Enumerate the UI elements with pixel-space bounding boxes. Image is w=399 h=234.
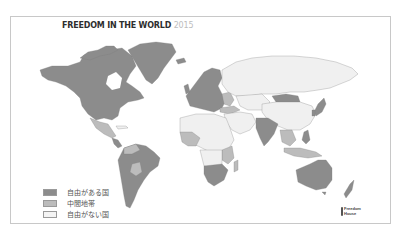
region-uk bbox=[184, 84, 190, 94]
swatch-partly-free bbox=[43, 200, 57, 207]
region-greenland bbox=[128, 42, 176, 84]
region-india bbox=[256, 118, 278, 146]
logo-text: Freedom House bbox=[344, 207, 361, 216]
region-australia bbox=[296, 160, 332, 190]
legend-label: 自由がある国 bbox=[67, 187, 109, 197]
region-new-zealand bbox=[344, 180, 354, 198]
swatch-free bbox=[43, 189, 57, 196]
legend-label: 中間地帯 bbox=[67, 198, 95, 208]
region-indonesia bbox=[284, 148, 322, 158]
legend-item-partly-free: 中間地帯 bbox=[43, 198, 109, 208]
region-philippines bbox=[302, 130, 310, 144]
region-madagascar bbox=[234, 160, 238, 172]
region-korea bbox=[312, 110, 315, 116]
legend-label: 自由がない国 bbox=[67, 209, 109, 219]
region-cuba bbox=[116, 126, 128, 129]
region-western-europe bbox=[186, 68, 226, 112]
freedom-house-logo: Freedom House bbox=[341, 207, 361, 216]
region-central-america bbox=[112, 138, 122, 148]
region-japan bbox=[314, 98, 326, 116]
legend: 自由がある国 中間地帯 自由がない国 bbox=[43, 187, 109, 220]
region-tasmania bbox=[322, 192, 326, 195]
swatch-not-free bbox=[43, 211, 57, 218]
region-southeast-asia bbox=[280, 130, 296, 146]
region-southern-africa bbox=[204, 164, 228, 186]
logo-mark-icon bbox=[341, 207, 343, 216]
legend-item-not-free: 自由がない国 bbox=[43, 209, 109, 219]
region-russia bbox=[222, 56, 358, 96]
region-mexico bbox=[90, 118, 116, 138]
region-iceland bbox=[176, 58, 186, 64]
legend-item-free: 自由がある国 bbox=[43, 187, 109, 197]
